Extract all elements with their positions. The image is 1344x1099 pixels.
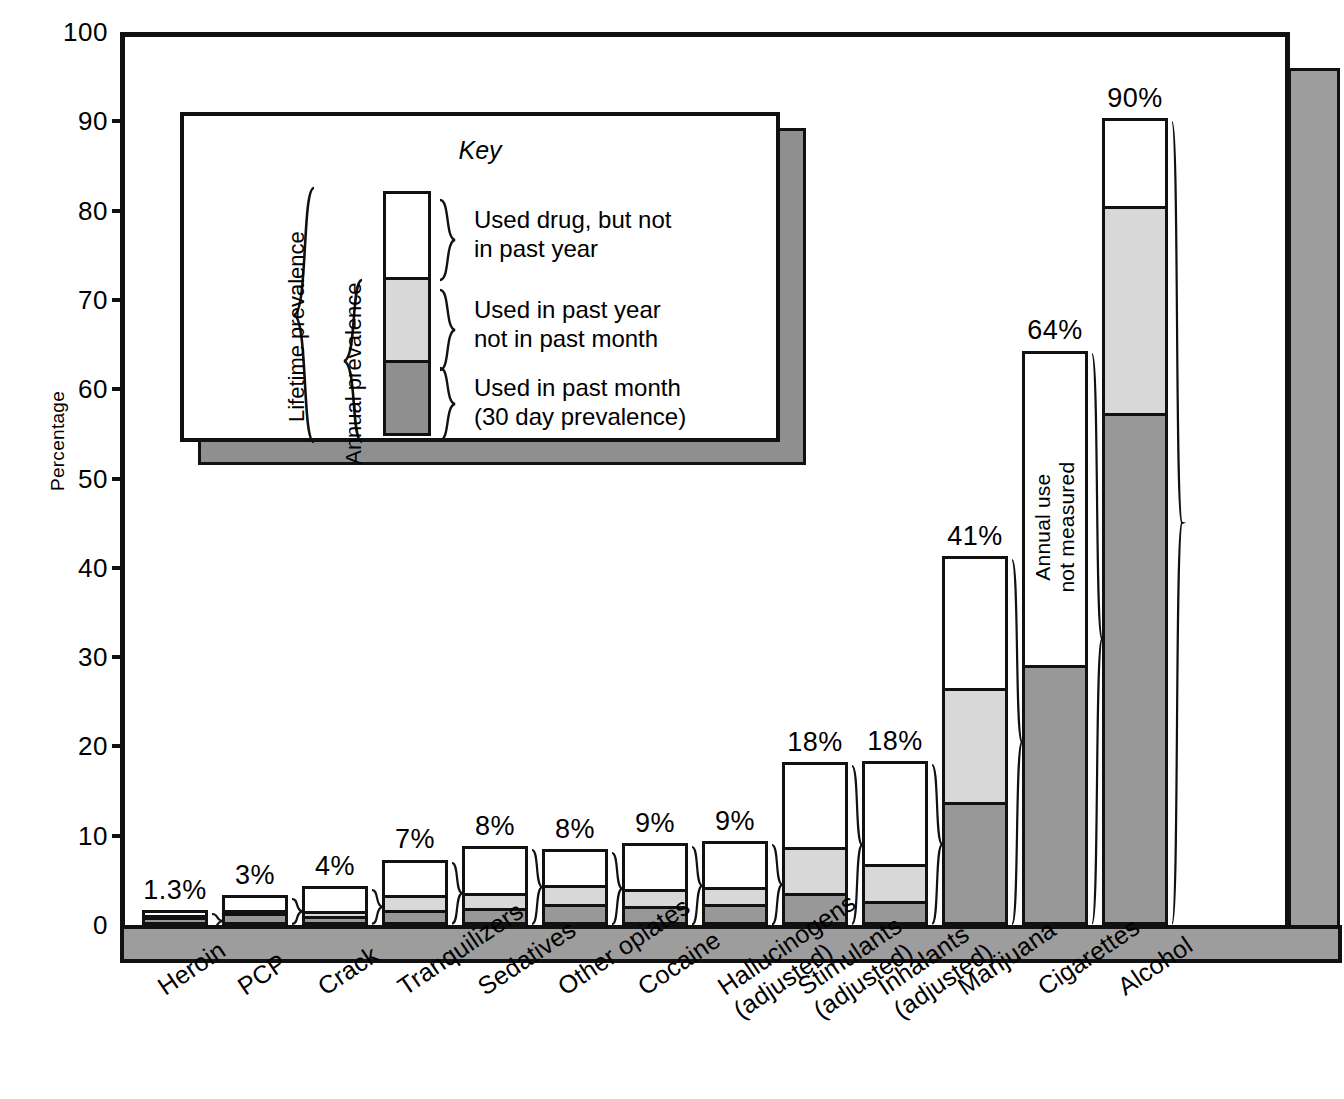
- x-tick-label-heroin: Heroin: [153, 936, 230, 1001]
- x-tick-label-other-opiates: Other opiates: [553, 893, 695, 1001]
- x-tick-label-pcp: PCP: [233, 949, 292, 1001]
- x-axis-labels: HeroinPCPCrackTranquilizersSedativesOthe…: [0, 0, 1344, 1099]
- chart-canvas: Percentage 1009080706050403020100 1.3%3%…: [0, 0, 1344, 1099]
- x-tick-label-crack: Crack: [313, 941, 383, 1001]
